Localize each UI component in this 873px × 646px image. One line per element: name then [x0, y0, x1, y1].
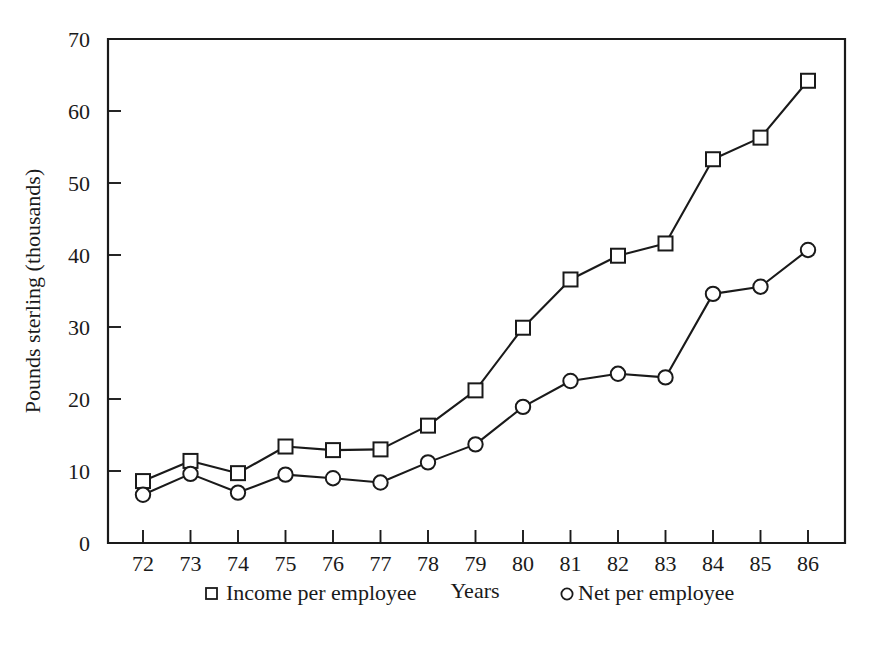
- data-point-square: [611, 249, 625, 263]
- x-tick-label: 79: [465, 551, 487, 576]
- data-point-circle: [136, 488, 150, 502]
- y-tick-label: 10: [68, 459, 90, 484]
- x-tick-label: 83: [655, 551, 677, 576]
- data-point-circle: [658, 370, 672, 384]
- data-point-square: [136, 474, 150, 488]
- data-point-circle: [183, 467, 197, 481]
- x-tick-label: 86: [797, 551, 819, 576]
- data-point-circle: [706, 287, 720, 301]
- data-point-square: [516, 321, 530, 335]
- x-axis-ticks: [143, 530, 808, 543]
- series-line-income-per-employee: [143, 81, 808, 481]
- y-axis-tick-labels: 010203040506070: [68, 27, 90, 556]
- y-axis-ticks: [108, 111, 121, 471]
- y-axis-title: Pounds sterling (thousands): [20, 169, 45, 413]
- x-tick-label: 73: [180, 551, 202, 576]
- data-point-circle: [373, 475, 387, 489]
- data-point-square: [231, 466, 245, 480]
- axis-titles: Pounds sterling (thousands): [20, 169, 45, 413]
- data-point-circle: [468, 437, 482, 451]
- series-line-net-per-employee: [143, 250, 808, 495]
- data-series-group: [136, 74, 815, 502]
- y-tick-label: 60: [68, 99, 90, 124]
- legend-marker-square: [206, 588, 217, 599]
- data-point-circle: [421, 455, 435, 469]
- data-point-circle: [801, 243, 815, 257]
- legend-label-net-per-employee: Net per employee: [578, 580, 734, 605]
- x-tick-label: 76: [322, 551, 344, 576]
- y-tick-label: 20: [68, 387, 90, 412]
- y-tick-label: 50: [68, 171, 90, 196]
- x-tick-label: 75: [275, 551, 297, 576]
- data-point-circle: [563, 374, 577, 388]
- legend-marker-circle: [561, 588, 572, 599]
- data-point-square: [374, 442, 388, 456]
- data-point-circle: [516, 400, 530, 414]
- x-tick-label: 72: [132, 551, 154, 576]
- data-point-square: [279, 440, 293, 454]
- data-point-square: [706, 152, 720, 166]
- data-point-circle: [231, 485, 245, 499]
- x-tick-label: 78: [417, 551, 439, 576]
- data-point-circle: [753, 279, 767, 293]
- chart-legend: Income per employeeYearsNet per employee: [206, 578, 734, 605]
- data-point-square: [754, 131, 768, 145]
- x-axis-tick-labels: 727374757677787980818283848586: [132, 551, 819, 576]
- x-tick-label: 77: [370, 551, 392, 576]
- data-point-square: [801, 74, 815, 88]
- data-point-circle: [278, 467, 292, 481]
- chart-page: 010203040506070 727374757677787980818283…: [0, 0, 873, 646]
- data-point-square: [564, 272, 578, 286]
- x-tick-label: 81: [560, 551, 582, 576]
- x-tick-label: 82: [607, 551, 629, 576]
- x-tick-label: 84: [702, 551, 724, 576]
- x-tick-label: 85: [750, 551, 772, 576]
- legend-label-income-per-employee: Income per employee: [226, 580, 417, 605]
- x-axis-title: Years: [450, 578, 499, 603]
- y-tick-label: 70: [68, 27, 90, 52]
- x-tick-label: 80: [512, 551, 534, 576]
- data-point-circle: [611, 367, 625, 381]
- y-tick-label: 0: [79, 531, 90, 556]
- data-point-square: [659, 236, 673, 250]
- data-point-circle: [326, 471, 340, 485]
- data-point-square: [326, 443, 340, 457]
- y-tick-label: 30: [68, 315, 90, 340]
- y-tick-label: 40: [68, 243, 90, 268]
- line-chart: 010203040506070 727374757677787980818283…: [0, 0, 873, 646]
- x-tick-label: 74: [227, 551, 249, 576]
- data-point-square: [421, 419, 435, 433]
- data-point-square: [469, 383, 483, 397]
